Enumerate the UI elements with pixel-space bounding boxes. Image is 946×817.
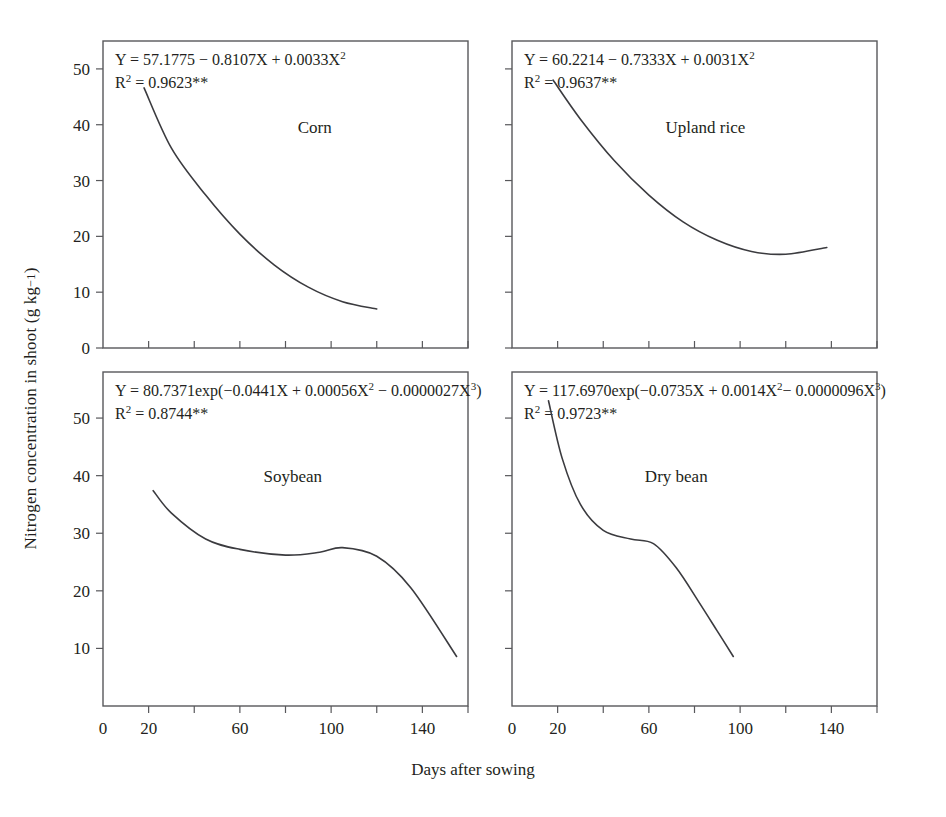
panel-r2: R2 = 0.9637**	[524, 72, 617, 91]
y-axis-title-tail: )	[21, 267, 41, 273]
y-tick-label: 10	[73, 639, 90, 658]
y-tick-label: 10	[73, 283, 90, 302]
y-axis-title: Nitrogen concentration in shoot (g kg−1)	[16, 0, 46, 817]
x-tick-label-origin: 0	[508, 719, 517, 738]
y-tick-label: 30	[73, 172, 90, 191]
chart-svg: 01020304050Y = 57.1775 − 0.8107X + 0.003…	[0, 0, 946, 817]
x-tick-label: 140	[410, 719, 436, 738]
x-tick-label: 60	[231, 719, 248, 738]
figure-container: Nitrogen concentration in shoot (g kg−1)…	[0, 0, 946, 817]
panel-label-dry-bean: Dry bean	[645, 467, 708, 486]
y-tick-label: 0	[82, 339, 91, 358]
x-tick-label: 20	[140, 719, 157, 738]
y-tick-label: 50	[73, 409, 90, 428]
y-tick-label: 50	[73, 60, 90, 79]
panel-r2: R2 = 0.9723**	[524, 403, 617, 422]
x-tick-label: 100	[727, 719, 753, 738]
panel-soybean: 206010014001020304050Y = 80.7371exp(−0.0…	[73, 372, 481, 738]
panel-upland-rice: Y = 60.2214 − 0.7333X + 0.0031X2R2 = 0.9…	[505, 41, 877, 348]
panel-r2: R2 = 0.9623**	[115, 72, 208, 91]
panel-label-upland-rice: Upland rice	[666, 118, 746, 137]
y-tick-label: 20	[73, 582, 90, 601]
x-tick-label: 60	[640, 719, 657, 738]
panel-equation: Y = 80.7371exp(−0.0441X + 0.00056X2 − 0.…	[115, 380, 481, 400]
panel-frame	[103, 372, 468, 706]
panel-corn: 01020304050Y = 57.1775 − 0.8107X + 0.003…	[73, 41, 468, 358]
y-tick-label: 40	[73, 116, 90, 135]
panel-equation: Y = 57.1775 − 0.8107X + 0.0033X2	[115, 49, 346, 68]
x-tick-label: 140	[819, 719, 845, 738]
x-axis-title: Days after sowing	[0, 760, 946, 780]
panel-equation: Y = 60.2214 − 0.7333X + 0.0031X2	[524, 49, 755, 68]
panel-label-corn: Corn	[298, 118, 333, 137]
y-tick-label: 40	[73, 467, 90, 486]
fitted-curve-corn	[144, 88, 377, 309]
fitted-curve-dry-bean	[549, 401, 734, 657]
y-tick-label: 20	[73, 227, 90, 246]
y-tick-label: 30	[73, 524, 90, 543]
y-axis-title-main: Nitrogen concentration in shoot (g kg	[21, 287, 41, 550]
x-tick-label-origin: 0	[99, 719, 108, 738]
panel-frame	[512, 372, 877, 706]
panel-label-soybean: Soybean	[264, 467, 323, 486]
panel-dry-bean: 20601001400Y = 117.6970exp(−0.0735X + 0.…	[505, 372, 886, 738]
x-tick-label: 20	[549, 719, 566, 738]
fitted-curve-soybean	[153, 491, 456, 657]
x-tick-label: 100	[318, 719, 344, 738]
panel-r2: R2 = 0.8744**	[115, 403, 208, 422]
fitted-curve-upland-rice	[553, 80, 827, 254]
panel-equation: Y = 117.6970exp(−0.0735X + 0.0014X2− 0.0…	[524, 380, 886, 400]
